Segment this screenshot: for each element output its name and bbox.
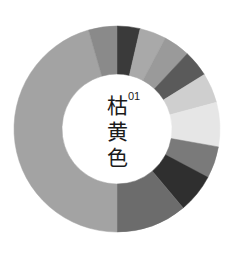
title-char-1: 枯 (104, 93, 130, 119)
color-name-title: 枯 黄 色 (104, 93, 130, 171)
title-char-2: 黄 (104, 119, 130, 145)
title-char-3: 色 (104, 145, 130, 171)
